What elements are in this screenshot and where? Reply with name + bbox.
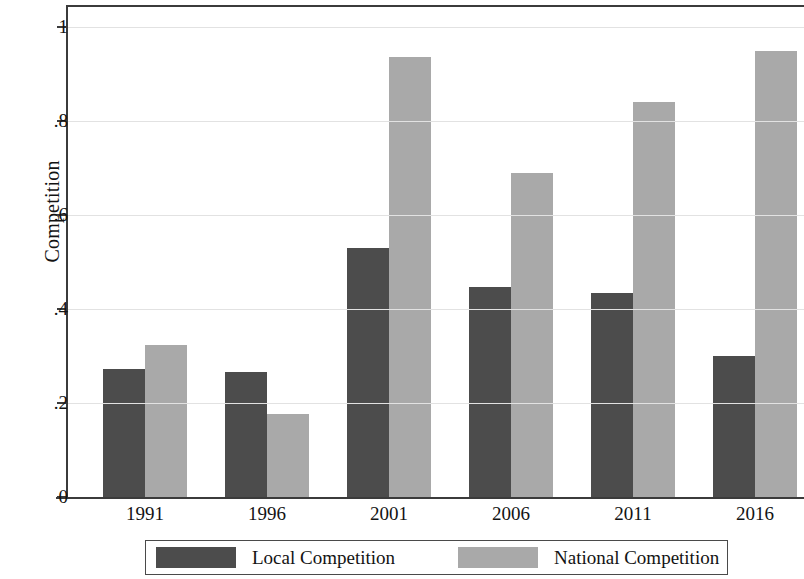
gridline (68, 215, 804, 216)
legend-swatch-local (156, 547, 236, 568)
x-axis-tick-label: 2016 (695, 503, 804, 525)
bars-container (0, 0, 804, 579)
x-axis-tick-label: 2001 (329, 503, 449, 525)
bar (469, 287, 511, 497)
bar (145, 345, 187, 497)
bar (713, 356, 755, 497)
legend-swatch-national (458, 547, 538, 568)
legend-label-local: Local Competition (252, 547, 395, 569)
bar (347, 248, 389, 497)
bar-chart: Competition 0.2.4.6.81 19911996200120062… (0, 0, 804, 579)
bar (389, 57, 431, 497)
gridline (68, 309, 804, 310)
bar (103, 369, 145, 497)
bar (633, 102, 675, 497)
x-axis-tick-label: 1991 (85, 503, 205, 525)
x-axis-tick-label: 2011 (573, 503, 693, 525)
x-axis-tick-label: 2006 (451, 503, 571, 525)
legend-item-local: Local Competition (156, 541, 395, 574)
bar (267, 414, 309, 497)
bar (225, 372, 267, 497)
gridline (68, 27, 804, 28)
gridline (68, 121, 804, 122)
legend: Local Competition National Competition (145, 540, 728, 575)
bar (511, 173, 553, 497)
legend-item-national: National Competition (458, 541, 719, 574)
legend-label-national: National Competition (554, 547, 719, 569)
x-axis-tick-label: 1996 (207, 503, 327, 525)
gridline (68, 403, 804, 404)
bar (755, 51, 797, 498)
bar (591, 293, 633, 497)
